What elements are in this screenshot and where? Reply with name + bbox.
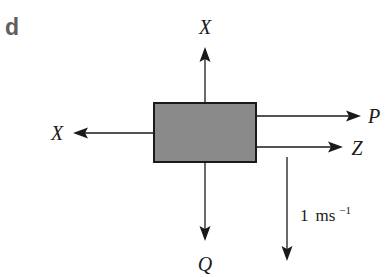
force-arrow-up: X (198, 16, 212, 103)
block (154, 103, 256, 162)
velocity-label: 1 ms −1 (300, 204, 351, 225)
force-arrow-left: X (50, 122, 154, 144)
diagram-canvas: d X X P Z (0, 0, 391, 277)
velocity-arrow: 1 ms −1 (282, 157, 352, 261)
force-label-right-bottom: Z (351, 137, 363, 159)
block-rect (154, 103, 256, 162)
force-diagram: d X X P Z (0, 0, 391, 277)
force-label-right-top: P (367, 105, 380, 127)
force-arrow-right-top: P (256, 105, 380, 127)
force-label-left: X (50, 122, 64, 144)
force-arrow-down: Q (198, 162, 213, 275)
velocity-value: 1 (300, 206, 309, 225)
panel-label: d (5, 14, 19, 40)
force-label-up: X (198, 16, 212, 38)
force-arrow-right-bottom: Z (256, 137, 363, 159)
force-label-down: Q (198, 253, 213, 275)
velocity-exponent: −1 (339, 204, 351, 216)
velocity-unit: ms (316, 206, 336, 225)
